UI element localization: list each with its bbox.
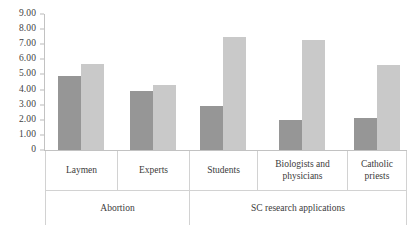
category-row: LaymenExpertsStudentsBiologists and phys… [45, 151, 407, 191]
bar-chart: 01.002.003.004.005.006.007.008.009.00 La… [0, 0, 416, 229]
bar [58, 76, 81, 150]
bar-group [347, 14, 407, 150]
bar [279, 120, 302, 150]
category-label: Catholic priests [347, 151, 407, 191]
group-row: AbortionSC research applications [45, 191, 407, 225]
bar [302, 40, 325, 150]
bar [81, 64, 104, 150]
y-axis-tick-label: 4.00 [19, 85, 36, 95]
bar-group [189, 14, 257, 150]
bar [354, 118, 377, 150]
category-label: Experts [117, 151, 189, 191]
y-axis-tick-label: 7.00 [19, 39, 36, 49]
bar [130, 91, 153, 150]
group-label: SC research applications [189, 191, 407, 225]
bar [377, 65, 400, 150]
category-label: Students [189, 151, 257, 191]
category-label: Biologists and physicians [257, 151, 347, 191]
y-axis-tick-label: 0 [31, 145, 36, 155]
bar-group [45, 14, 117, 150]
bar-group [117, 14, 189, 150]
y-axis-tick-label: 5.00 [19, 70, 36, 80]
y-axis-tick-label: 3.00 [19, 100, 36, 110]
bar-group [257, 14, 347, 150]
bar [200, 106, 223, 150]
y-axis-tick-label: 1.00 [19, 130, 36, 140]
plot-area [45, 14, 407, 150]
category-label-table: LaymenExpertsStudentsBiologists and phys… [45, 151, 407, 227]
y-axis-tick-label: 8.00 [19, 24, 36, 34]
category-label: Laymen [45, 151, 117, 191]
y-axis: 01.002.003.004.005.006.007.008.009.00 [0, 14, 44, 150]
y-axis-tick-label: 6.00 [19, 55, 36, 65]
y-axis-tick-label: 9.00 [19, 9, 36, 19]
bar [153, 85, 176, 150]
y-axis-tick-label: 2.00 [19, 115, 36, 125]
bar [223, 37, 246, 150]
group-label: Abortion [45, 191, 189, 225]
